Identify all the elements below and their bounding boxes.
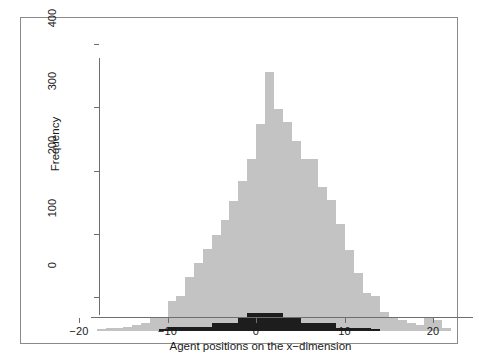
y-tick-label: 400: [18, 37, 86, 51]
x-tick-label: 10: [325, 325, 365, 337]
histogram-bar: [371, 329, 380, 331]
histogram-bar: [336, 224, 345, 331]
histogram-bar: [274, 109, 283, 331]
plot-area: [99, 48, 479, 314]
y-tick: [94, 171, 99, 172]
x-axis-label: Agent positions on the x−dimension: [21, 340, 479, 352]
x-tick-label: 20: [413, 325, 453, 337]
histogram-bar: [247, 159, 256, 331]
y-tick: [94, 107, 99, 108]
x-tick: [433, 318, 434, 323]
y-axis-line: [99, 58, 100, 315]
histogram-bar: [318, 187, 327, 331]
y-tick-label: 100: [18, 227, 86, 241]
y-tick: [94, 297, 99, 298]
histogram-bars: [99, 48, 479, 314]
x-tick: [345, 318, 346, 323]
x-tick: [79, 318, 80, 323]
y-tick-label: 0: [18, 290, 86, 304]
histogram-bar: [203, 249, 212, 331]
x-tick-label: −10: [148, 325, 188, 337]
histogram-bar: [291, 317, 300, 331]
histogram-bar: [114, 328, 123, 331]
y-tick: [94, 234, 99, 235]
figure-frame: −20−1001020 0100200300400 Frequency Agen…: [20, 17, 458, 344]
histogram-bar: [203, 327, 212, 331]
figure: −20−1001020 0100200300400 Frequency Agen…: [0, 0, 479, 358]
x-tick-label: −20: [59, 325, 99, 337]
y-tick: [94, 44, 99, 45]
histogram-bar: [185, 277, 194, 331]
x-axis-line: [91, 317, 473, 318]
histogram-bar: [229, 201, 238, 331]
histogram-bar: [291, 141, 300, 331]
x-tick: [168, 318, 169, 323]
x-tick-label: 0: [236, 325, 276, 337]
histogram-bar: [380, 312, 389, 331]
x-tick: [256, 318, 257, 323]
y-axis-label: Frequency: [49, 94, 61, 194]
